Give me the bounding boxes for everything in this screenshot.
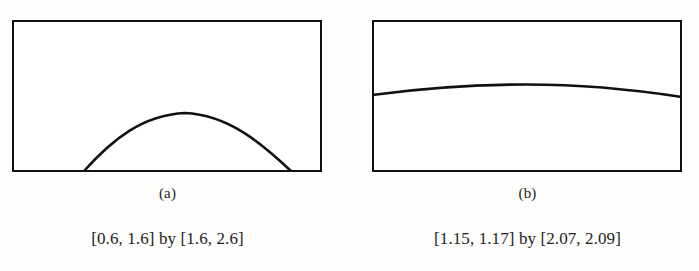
window-caption-a: [0.6, 1.6] by [1.6, 2.6] [0, 227, 335, 251]
figure-panel-b: (b) [1.15, 1.17] by [2.07, 2.09] [350, 0, 699, 271]
panel-letter-b: (b) [360, 183, 695, 203]
plot-frame-a [12, 20, 322, 172]
window-caption-b: [1.15, 1.17] by [2.07, 2.09] [360, 227, 695, 251]
figure-panel-a: (a) [0.6, 1.6] by [1.6, 2.6] [0, 0, 349, 271]
panel-letter-a: (a) [0, 183, 335, 203]
viewing-window-rect-b [373, 21, 681, 171]
plot-canvas-b [372, 20, 682, 172]
viewing-window-rect-a [13, 21, 321, 171]
plot-canvas-a [12, 20, 322, 172]
figure-root: (a) [0.6, 1.6] by [1.6, 2.6] (b) [1.15, … [0, 0, 699, 271]
plot-frame-b [372, 20, 682, 172]
